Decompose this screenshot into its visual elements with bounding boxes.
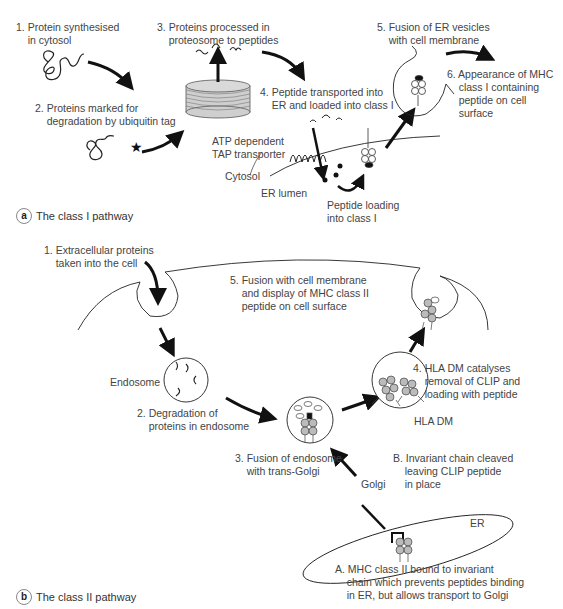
mhc-ii-surface-icon <box>421 297 439 330</box>
panel-b-badge: b <box>16 589 32 605</box>
arrow-proteasome-to-er <box>262 52 302 76</box>
hla-dm-label: HLA DM <box>414 415 453 428</box>
ubiquitin-star-icon: ★ <box>130 139 143 155</box>
class-ii-step-2: 2. Degradation of proteins in endosome <box>137 407 249 433</box>
class-ii-step-1: 1. Extracellular proteins taken into the… <box>44 244 154 270</box>
peptide-dot <box>338 164 343 169</box>
arrow-fusion-to-hladm <box>342 398 376 410</box>
class-ii-step-5: 5. Fusion with cell membrane and display… <box>230 274 369 313</box>
class-ii-step-a: A. MHC class II bound to invariant chain… <box>335 563 524 602</box>
class-i-step-2: 2. Proteins marked for degradation by ub… <box>35 102 176 128</box>
arrow-fusion-to-surface <box>446 52 490 58</box>
class-ii-step-4: 4. HLA DM catalyses removal of CLIP and … <box>413 362 520 401</box>
panel-a-caption: a The class I pathway <box>16 208 133 224</box>
peptide-loading-label: Peptide loading into class I <box>327 199 399 225</box>
class-i-step-3: 3. Proteins processed in proteosome to p… <box>157 21 278 47</box>
class-ii-step-b: B. Invariant chain cleaved leaving CLIP … <box>393 452 513 491</box>
arrow-tap-transport <box>313 128 323 176</box>
arrow-peptide-loading <box>338 178 362 191</box>
class-ii-step-3: 3. Fusion of endosome with trans-Golgi <box>235 452 342 478</box>
mhc-ii-invariant-chain-icon <box>392 533 412 562</box>
class-i-step-1: 1. Protein synthesised in cytosol <box>16 21 119 47</box>
er-membrane <box>270 136 440 176</box>
mhc-class-i-icon <box>362 128 376 168</box>
er-to-golgi-line <box>362 505 385 529</box>
er-label: ER <box>470 517 485 530</box>
panel-a-title: The class I pathway <box>36 210 133 222</box>
cytosol-label: Cytosol <box>225 170 260 183</box>
protein-squiggle-icon <box>44 51 84 80</box>
class-i-step-4: 4. Peptide transported into ER and loade… <box>260 86 394 112</box>
proteasome-icon <box>186 80 250 118</box>
golgi-label: Golgi <box>361 478 386 491</box>
arrow-er-to-vesicle <box>386 112 412 148</box>
ubiquitin-protein-icon <box>87 136 114 160</box>
panel-b-caption: b The class II pathway <box>16 589 136 605</box>
class-i-step-5: 5. Fusion of ER vesicles with cell membr… <box>377 21 490 47</box>
tap-transporter-label: ATP dependent TAP transporter <box>212 135 285 161</box>
arrow-marking-to-proteasome <box>142 134 180 152</box>
peptide-dot <box>334 173 339 178</box>
arrow-to-endosome <box>160 328 172 352</box>
arrow-hladm-to-surface <box>410 332 422 352</box>
panel-a-badge: a <box>16 208 32 224</box>
er-lumen-label: ER lumen <box>261 187 307 200</box>
panel-b-title: The class II pathway <box>36 591 136 603</box>
arrow-synthesis-to-marking <box>88 62 130 86</box>
mhc-class-i-surface-icon <box>412 76 426 107</box>
endosome-label: Endosome <box>110 376 160 389</box>
class-i-step-6: 6. Appearance of MHC class I containing … <box>447 68 553 120</box>
peptide-dot <box>323 178 328 183</box>
